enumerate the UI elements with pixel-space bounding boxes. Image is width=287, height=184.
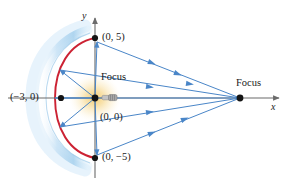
label-focus-right: Focus: [236, 78, 261, 89]
point-focus-right: [237, 95, 244, 102]
reflected-rays: [55, 42, 240, 155]
label-vertex-left: (−3, 0): [10, 92, 39, 103]
label-bottom-point: (0, −5): [102, 152, 131, 163]
diagram-svg: [0, 0, 287, 184]
label-y-axis: y: [82, 11, 86, 21]
point-vertex-left: [58, 95, 64, 101]
label-x-axis: x: [271, 102, 275, 112]
figure-canvas: (−3, 0) (0, 5) (0, 0) (0, −5) Focus Focu…: [0, 0, 287, 184]
label-origin-point: (0, 0): [100, 112, 123, 123]
point-focus-origin: [92, 95, 99, 102]
label-top-point: (0, 5): [102, 32, 125, 43]
point-co-vertex-bottom: [92, 155, 98, 161]
point-co-vertex-top: [92, 35, 98, 41]
label-focus-left: Focus: [101, 72, 126, 83]
light-bulb-icon: [102, 95, 117, 101]
